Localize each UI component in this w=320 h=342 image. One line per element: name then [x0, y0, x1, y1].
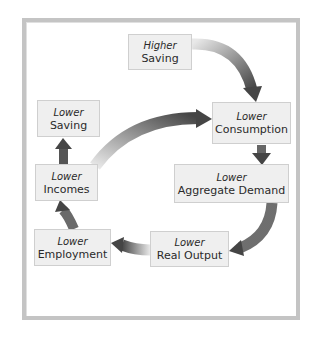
node-lower-real-output: Lower Real Output	[150, 231, 229, 267]
node-lower-consumption: Lower Consumption	[212, 102, 291, 144]
node-label: Employment	[35, 248, 110, 261]
node-qualifier: Lower	[35, 235, 110, 248]
node-lower-saving: Lower Saving	[37, 100, 100, 137]
arrow-higher-saving-to-consumption	[192, 44, 262, 102]
node-higher-saving: Higher Saving	[128, 34, 192, 70]
node-label: Saving	[129, 52, 191, 65]
node-label: Consumption	[213, 123, 290, 136]
node-qualifier: Lower	[151, 236, 228, 249]
node-lower-incomes: Lower Incomes	[35, 164, 98, 201]
node-label: Aggregate Demand	[175, 184, 288, 197]
node-label: Real Output	[151, 249, 228, 262]
arrow-incomes-to-lower-saving	[55, 138, 72, 164]
node-qualifier: Lower	[213, 110, 290, 123]
node-qualifier: Lower	[36, 170, 97, 183]
node-qualifier: Lower	[175, 171, 288, 184]
node-label: Saving	[38, 119, 99, 132]
node-lower-aggregate-demand: Lower Aggregate Demand	[174, 164, 289, 203]
arrow-aggregate-demand-to-real-output	[229, 203, 272, 256]
node-qualifier: Lower	[38, 106, 99, 119]
node-qualifier: Higher	[129, 39, 191, 52]
arrow-consumption-to-aggregate-demand	[252, 145, 271, 165]
arrow-incomes-to-consumption	[95, 109, 212, 166]
arrow-employment-to-incomes	[55, 200, 74, 229]
node-lower-employment: Lower Employment	[34, 229, 111, 266]
arrow-real-output-to-employment	[111, 237, 150, 253]
node-label: Incomes	[36, 183, 97, 196]
